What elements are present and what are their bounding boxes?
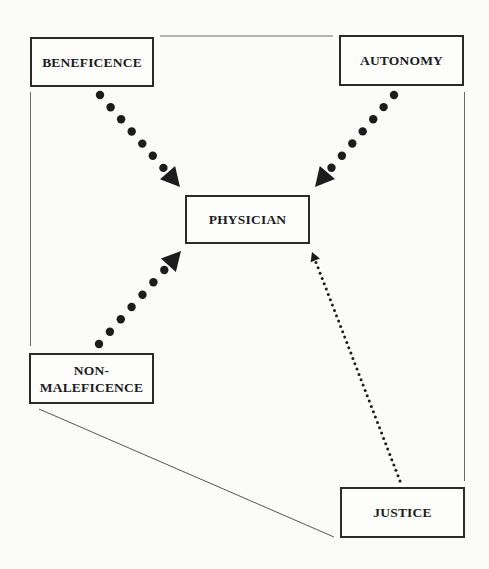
arrow-dot (138, 139, 146, 147)
node-label-physician: PHYSICIAN (209, 211, 287, 228)
node-label-justice: JUSTICE (373, 504, 431, 521)
arrow-dot (159, 164, 167, 172)
arrow-dot (128, 127, 136, 135)
arrow-dot (359, 127, 367, 135)
arrow-dot (149, 278, 157, 286)
arrow-dot (323, 282, 326, 285)
arrow-dot (317, 266, 320, 269)
arrow-dot (386, 448, 389, 451)
arrow-dot (345, 341, 348, 344)
arrow-dot (349, 352, 352, 355)
arrow-dot (347, 346, 350, 349)
arrow-dot (353, 362, 356, 365)
arrow-dot (364, 389, 367, 392)
arrow-dot (343, 336, 346, 339)
arrow-dot (368, 400, 371, 403)
arrow-dot (388, 453, 391, 456)
arrow-dot (384, 442, 387, 445)
arrow-dot (351, 357, 354, 360)
arrow-dot (127, 303, 135, 311)
node-justice: JUSTICE (340, 487, 465, 538)
arrow-dot (392, 464, 395, 467)
arrow-dot (149, 152, 157, 160)
arrow-dot (138, 291, 146, 299)
arrow-dot (160, 266, 168, 274)
arrow-dot (331, 304, 334, 307)
node-label-non-maleficence: NON- MALEFICENCE (40, 362, 143, 396)
arrow-dot (376, 421, 379, 424)
arrow-dot (390, 91, 398, 99)
arrow-dot (380, 432, 383, 435)
arrow-dot (394, 469, 397, 472)
arrow-dot (358, 373, 361, 376)
arrow-dot (370, 405, 373, 408)
arrow-dot (329, 298, 332, 301)
arrow-non-maleficence-to-physician (95, 251, 181, 348)
arrow-dot (366, 394, 369, 397)
arrow-dot (397, 474, 400, 477)
arrow-dot (362, 384, 365, 387)
arrow-dot (372, 410, 375, 413)
arrow-dot (106, 103, 114, 111)
arrow-dot (319, 272, 322, 275)
arrow-dot (117, 115, 125, 123)
arrow-dot (369, 115, 377, 123)
arrow-autonomy-to-physician (315, 91, 398, 187)
arrow-dot (321, 277, 324, 280)
arrow-dot (327, 164, 335, 172)
arrow-dot (360, 378, 363, 381)
arrow-dot (338, 152, 346, 160)
node-physician: PHYSICIAN (185, 195, 310, 244)
arrow-dot (325, 288, 328, 291)
arrow-dot (335, 314, 338, 317)
arrow-dot (399, 480, 402, 483)
arrow-dot (341, 330, 344, 333)
arrow-dot (315, 261, 318, 264)
arrow-dot (117, 315, 125, 323)
arrow-beneficence-to-physician (96, 91, 180, 187)
node-non-maleficence: NON- MALEFICENCE (29, 353, 154, 404)
arrow-dot (348, 139, 356, 147)
arrow-dot (339, 325, 342, 328)
arrow-dot (379, 103, 387, 111)
arrow-dot (96, 91, 104, 99)
arrow-dot (356, 368, 359, 371)
arrow-justice-to-physician (311, 252, 402, 483)
arrow-dot (382, 437, 385, 440)
arrow-dot (95, 340, 103, 348)
arrow-dot (337, 320, 340, 323)
arrowhead-icon (311, 252, 320, 262)
arrow-dot (327, 293, 330, 296)
node-label-beneficence: BENEFICENCE (42, 54, 142, 71)
arrow-dot (378, 426, 381, 429)
arrow-dot (390, 458, 393, 461)
node-label-autonomy: AUTONOMY (360, 52, 443, 69)
arrow-dot (106, 328, 114, 336)
node-autonomy: AUTONOMY (339, 35, 464, 86)
arrow-dot (374, 416, 377, 419)
node-beneficence: BENEFICENCE (30, 37, 154, 87)
arrow-dot (333, 309, 336, 312)
line-non-maleficence-justice (39, 409, 334, 537)
